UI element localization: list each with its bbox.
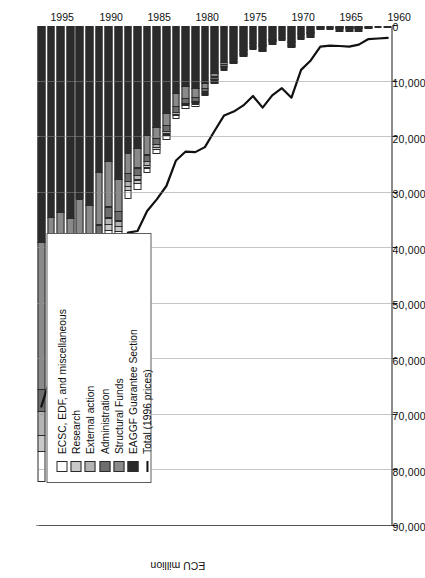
bar-row bbox=[383, 26, 391, 27]
bar-segment bbox=[114, 26, 122, 180]
bar-row bbox=[258, 26, 266, 51]
bar-segment bbox=[47, 26, 55, 218]
bar-segment bbox=[143, 135, 151, 156]
bar-segment bbox=[191, 26, 199, 89]
value-axis-tick-label: 20,000 bbox=[392, 133, 425, 145]
bar-segment bbox=[229, 26, 237, 57]
chart-legend: ECSC, EDF, and miscellaneous Research Ex… bbox=[46, 233, 151, 483]
bar-segment bbox=[104, 207, 112, 219]
category-axis-tick-label: 1980 bbox=[195, 11, 218, 23]
gridline bbox=[36, 136, 392, 137]
legend-swatch-icon bbox=[99, 461, 110, 472]
gridline bbox=[36, 81, 392, 82]
legend-item: Structural Funds bbox=[112, 244, 125, 472]
gridline bbox=[36, 525, 392, 526]
bar-segment bbox=[210, 26, 218, 74]
category-axis-tick-label: 1960 bbox=[387, 11, 410, 23]
legend-item-label: Administration bbox=[99, 389, 110, 454]
legend-item-label: ECSC, EDF, and miscellaneous bbox=[56, 309, 67, 454]
bar-segment bbox=[172, 93, 180, 107]
bar-row bbox=[191, 26, 199, 106]
value-axis-tick-label: 50,000 bbox=[392, 299, 425, 311]
bar-segment bbox=[278, 26, 286, 36]
bar-segment bbox=[258, 26, 266, 46]
value-axis-tick-label: 60,000 bbox=[392, 355, 425, 367]
bar-row bbox=[249, 26, 257, 49]
bar-segment bbox=[172, 26, 180, 94]
bar-segment bbox=[306, 26, 314, 33]
legend-swatch-icon bbox=[84, 461, 95, 472]
bar-row bbox=[345, 26, 353, 31]
legend-item: Research bbox=[69, 244, 82, 472]
bar-segment bbox=[114, 226, 122, 232]
bar-segment bbox=[249, 26, 257, 44]
bar-segment bbox=[37, 389, 45, 412]
bar-segment bbox=[191, 88, 199, 98]
bar-segment bbox=[268, 26, 276, 40]
legend-item: EAGGF Guarantee Section bbox=[126, 244, 139, 472]
bar-segment bbox=[104, 161, 112, 208]
category-axis-tick-label: 1990 bbox=[99, 11, 122, 23]
bar-segment bbox=[66, 26, 74, 219]
legend-swatch-icon bbox=[127, 461, 138, 472]
value-axis-tick-label: 70,000 bbox=[392, 410, 425, 422]
bar-segment bbox=[287, 26, 295, 43]
bar-row bbox=[297, 26, 305, 39]
bar-row bbox=[354, 26, 362, 31]
legend-line-icon bbox=[141, 461, 152, 472]
bar-segment bbox=[143, 155, 151, 163]
bar-segment bbox=[114, 221, 122, 227]
bar-segment bbox=[95, 26, 103, 173]
bar-row bbox=[152, 26, 160, 153]
value-axis-tick-label: 40,000 bbox=[392, 244, 425, 256]
bar-row bbox=[172, 26, 180, 118]
bar-segment bbox=[181, 86, 189, 99]
bar-row bbox=[201, 26, 209, 96]
bar-segment bbox=[124, 153, 132, 174]
bar-row bbox=[181, 26, 189, 108]
value-axis-tick-label: 0 bbox=[392, 22, 398, 34]
category-axis-tick-label: 1995 bbox=[50, 11, 73, 23]
bar-segment bbox=[104, 218, 112, 225]
bar-row bbox=[114, 26, 122, 240]
legend-swatch-icon bbox=[56, 461, 67, 472]
bar-segment bbox=[37, 242, 45, 389]
bar-segment bbox=[37, 26, 45, 243]
bar-segment bbox=[364, 26, 372, 28]
bar-segment bbox=[124, 26, 132, 154]
legend-item-label: EAGGF Guarantee Section bbox=[127, 329, 138, 454]
legend-item-label: Research bbox=[70, 410, 81, 454]
legend-item: ECSC, EDF, and miscellaneous bbox=[55, 244, 68, 472]
bar-row bbox=[374, 26, 382, 27]
category-axis-tick-label: 1975 bbox=[243, 11, 266, 23]
bar-row bbox=[316, 26, 324, 30]
bar-segment bbox=[104, 26, 112, 162]
bar-segment bbox=[143, 168, 151, 174]
bar-segment bbox=[297, 26, 305, 35]
category-axis-tick-label: 1965 bbox=[339, 11, 362, 23]
legend-item-label: Total (1996 prices) bbox=[141, 369, 152, 454]
value-axis-title: ECU million bbox=[150, 560, 205, 572]
bar-segment bbox=[316, 26, 324, 28]
bar-segment bbox=[201, 26, 209, 84]
bar-row bbox=[229, 26, 237, 63]
bar-row bbox=[133, 26, 141, 189]
bar-row bbox=[220, 26, 228, 70]
bar-segment bbox=[326, 26, 334, 28]
bar-segment bbox=[162, 125, 170, 132]
bar-segment bbox=[37, 451, 45, 482]
bar-row bbox=[143, 26, 151, 173]
legend-item: Administration bbox=[98, 244, 111, 472]
bar-segment bbox=[152, 138, 160, 145]
legend-item-label: Structural Funds bbox=[113, 378, 124, 454]
value-axis-tick-label: 10,000 bbox=[392, 77, 425, 89]
bar-row bbox=[239, 26, 247, 57]
bar-row bbox=[364, 26, 372, 28]
legend-item: Total (1996 prices) bbox=[140, 244, 153, 472]
legend-swatch-icon bbox=[113, 461, 124, 472]
category-axis-tick-label: 1985 bbox=[147, 11, 170, 23]
value-axis-tick-label: 90,000 bbox=[392, 522, 425, 534]
bar-row bbox=[104, 26, 112, 241]
